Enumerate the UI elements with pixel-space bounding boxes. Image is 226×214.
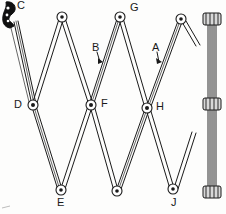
- bar-left-frame: [10, 24, 30, 106]
- pivot-h: [142, 103, 152, 113]
- label-d: D: [14, 99, 22, 110]
- vertical-rod: [203, 13, 221, 198]
- bar-E-F: [60, 106, 92, 192]
- pivot-g: [115, 12, 125, 22]
- bar-H-J: [146, 108, 174, 189]
- label-h: H: [156, 101, 164, 112]
- rod-collar-top: [203, 13, 221, 25]
- bar-D-E: [32, 106, 62, 190]
- pivot-j: [168, 184, 178, 194]
- pivot-top-right: [176, 14, 186, 24]
- bar-top1-F: [61, 18, 93, 105]
- bar-H-topright: [146, 21, 182, 109]
- lazy-tong-drawing: .bar{stroke:#1a1a1a;stroke-width:1;fill:…: [0, 0, 226, 214]
- bar-F-G: [89, 19, 121, 106]
- stray-mark: [2, 206, 10, 208]
- figure-root: .bar{stroke:#1a1a1a;stroke-width:1;fill:…: [0, 0, 226, 214]
- bar-G-H: [119, 18, 149, 108]
- rod-collar-middle: [203, 98, 221, 110]
- rod-collar-bottom: [203, 186, 221, 198]
- bar-bottommid-H: [116, 109, 149, 192]
- pivot-bottom-mid: [112, 186, 122, 196]
- pivot-f: [86, 100, 96, 110]
- leader-arrow-a: [156, 52, 162, 64]
- bar-D-top1: [32, 19, 63, 106]
- bar-C-D: [14, 21, 36, 105]
- pivot-d: [28, 100, 38, 110]
- label-b: B: [92, 42, 99, 53]
- pivot-e: [56, 185, 66, 195]
- label-a: A: [152, 42, 159, 53]
- bar-F-bottommid: [90, 105, 118, 191]
- leader-arrow-b: [97, 52, 103, 64]
- bar-stub-upper-right: [182, 21, 200, 46]
- label-f: F: [101, 98, 108, 109]
- label-c: C: [17, 0, 25, 11]
- pivot-top-left: [57, 12, 67, 22]
- label-e: E: [57, 197, 64, 208]
- label-j: J: [171, 197, 177, 208]
- handle-grip: [3, 2, 15, 28]
- label-g: G: [130, 2, 139, 13]
- bar-stub-lower-right: [174, 132, 196, 189]
